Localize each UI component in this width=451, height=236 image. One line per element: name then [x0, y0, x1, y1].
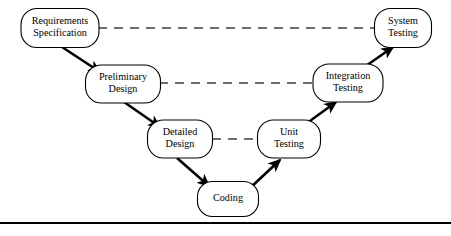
node-label-unit-testing-line2: Testing — [274, 138, 304, 149]
node-label-detailed-design-line1: Detailed — [163, 126, 198, 137]
node-coding[interactable]: Coding — [198, 182, 259, 217]
node-integration-testing[interactable]: IntegrationTesting — [313, 64, 383, 102]
node-label-detailed-design-line2: Design — [166, 138, 195, 149]
node-label-system-testing-line2: Testing — [388, 27, 418, 38]
flow-arrow-coding-to-unit-testing — [250, 160, 280, 188]
node-label-requirements-specification-line1: Requirements — [32, 15, 89, 26]
node-label-integration-testing-line1: Integration — [326, 70, 371, 81]
node-label-coding-line1: Coding — [213, 192, 243, 203]
node-label-integration-testing-line2: Testing — [333, 82, 363, 93]
diagram-canvas: RequirementsSpecificationPreliminaryDesi… — [0, 0, 451, 236]
node-preliminary-design[interactable]: PreliminaryDesign — [86, 65, 161, 103]
node-detailed-design[interactable]: DetailedDesign — [148, 120, 213, 158]
node-unit-testing[interactable]: UnitTesting — [258, 120, 321, 158]
node-label-unit-testing-line1: Unit — [280, 126, 298, 137]
node-label-preliminary-design-line2: Design — [109, 83, 138, 94]
node-label-preliminary-design-line1: Preliminary — [99, 71, 148, 82]
node-system-testing[interactable]: SystemTesting — [375, 9, 432, 48]
v-model-diagram: RequirementsSpecificationPreliminaryDesi… — [0, 0, 451, 236]
process-nodes-group: RequirementsSpecificationPreliminaryDesi… — [21, 9, 432, 217]
node-label-system-testing-line1: System — [388, 15, 418, 26]
node-requirements-specification[interactable]: RequirementsSpecification — [21, 9, 99, 48]
node-label-requirements-specification-line2: Specification — [33, 27, 87, 38]
flow-arrow-detailed-design-to-coding — [177, 158, 209, 186]
